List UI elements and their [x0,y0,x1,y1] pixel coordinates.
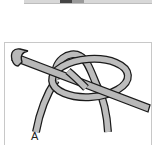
figure-label: A [31,131,38,142]
crochet-knot-illustration [0,0,156,145]
